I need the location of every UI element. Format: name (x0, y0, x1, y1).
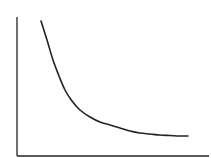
chart-svg (0, 0, 211, 158)
chart (0, 0, 211, 158)
decay-curve (41, 21, 188, 136)
